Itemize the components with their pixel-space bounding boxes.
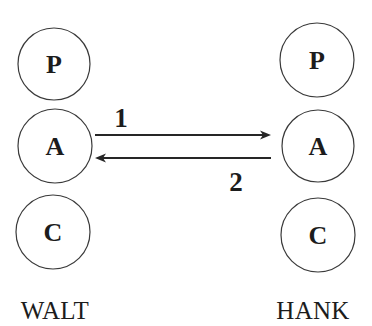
transaction-2: 2	[95, 154, 271, 198]
transaction-1: 1	[95, 103, 271, 140]
hank-ego-states: P A C HANK	[276, 23, 355, 324]
hank-child-node: C	[281, 198, 355, 272]
walt-label: WALT	[21, 297, 89, 324]
walt-adult-node: A	[18, 109, 92, 183]
hank-label: HANK	[276, 297, 349, 324]
hank-child-letter: C	[309, 221, 328, 250]
transaction-2-label: 2	[229, 167, 243, 197]
walt-child-node: C	[16, 195, 90, 269]
transaction-1-label: 1	[114, 103, 128, 133]
walt-adult-letter: A	[46, 132, 65, 161]
hank-adult-node: A	[282, 110, 354, 182]
walt-child-letter: C	[44, 218, 63, 247]
transactional-analysis-diagram: P A C WALT P A C HANK 1	[0, 0, 372, 326]
walt-ego-states: P A C WALT	[16, 28, 92, 324]
walt-parent-letter: P	[46, 50, 62, 79]
hank-adult-letter: A	[309, 132, 328, 161]
hank-parent-node: P	[280, 23, 354, 97]
walt-parent-node: P	[18, 28, 90, 100]
hank-parent-letter: P	[309, 46, 325, 75]
